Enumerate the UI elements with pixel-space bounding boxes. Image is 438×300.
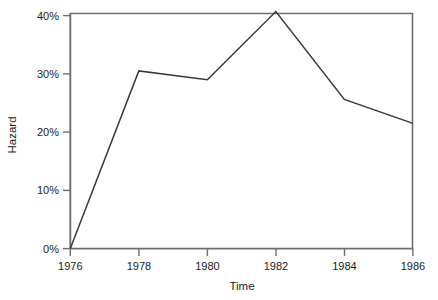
x-tick-label-1986: 1986 [401,260,425,272]
chart-background [0,0,438,300]
x-tick-label-1984: 1984 [332,260,356,272]
y-tick-label-20: 20% [37,126,59,138]
hazard-time-line-chart: 0% 10% 20% 30% 40% 1976 1978 1980 1982 1… [0,0,438,300]
y-tick-label-30: 30% [37,68,59,80]
chart-canvas: 0% 10% 20% 30% 40% 1976 1978 1980 1982 1… [0,0,438,300]
y-tick-label-40: 40% [37,10,59,22]
x-tick-label-1982: 1982 [264,260,288,272]
x-tick-label-1980: 1980 [195,260,219,272]
x-axis-title: Time [229,280,254,292]
y-tick-label-0: 0% [43,243,59,255]
x-tick-label-1978: 1978 [127,260,151,272]
x-tick-label-1976: 1976 [58,260,82,272]
y-axis-title: Hazard [6,116,18,153]
y-tick-label-10: 10% [37,184,59,196]
